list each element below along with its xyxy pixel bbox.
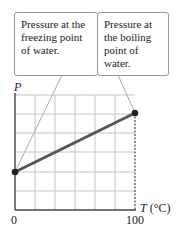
freezing-callout: Pressure at the freezing point of water. (14, 12, 98, 76)
grid (15, 95, 135, 210)
x-tick-0: 0 (11, 213, 17, 228)
boiling-callout: Pressure at the boiling point of water. (97, 12, 169, 76)
y-axis-label: P (14, 80, 21, 95)
x-axis-label: T (°C) (140, 201, 170, 216)
freezing-point-dot (12, 169, 19, 176)
boiling-point-dot (132, 110, 139, 117)
x-tick-100: 100 (126, 213, 144, 228)
boiling-pointer (118, 75, 135, 113)
